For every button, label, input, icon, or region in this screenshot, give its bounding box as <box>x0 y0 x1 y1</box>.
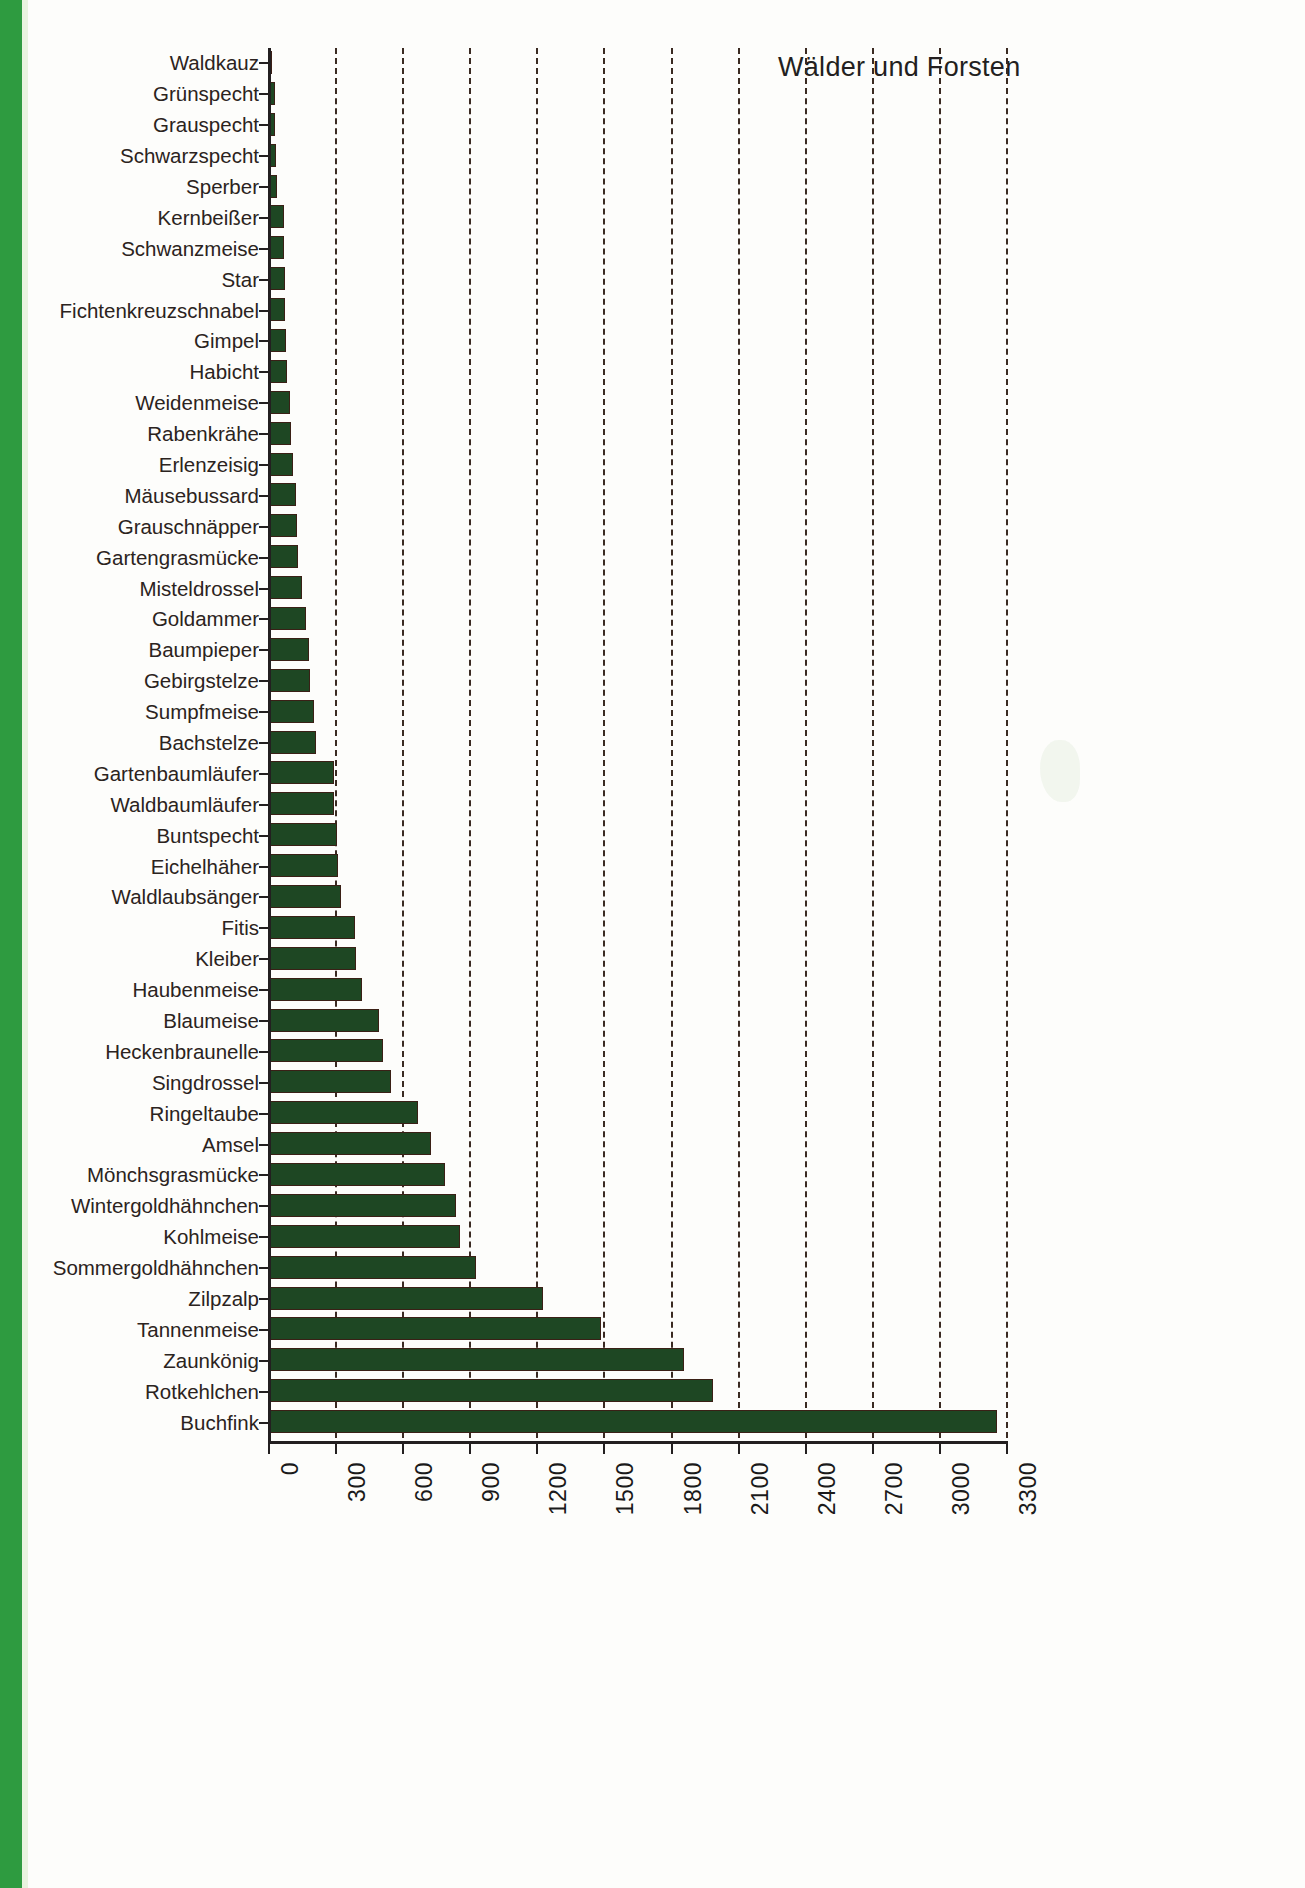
x-axis-line <box>268 1441 1008 1444</box>
y-axis-tick <box>259 896 268 898</box>
y-axis-label: Eichelhäher <box>151 857 259 878</box>
bar-row <box>268 1129 1006 1160</box>
bar-row <box>268 419 1006 450</box>
bar-row <box>268 944 1006 975</box>
y-axis-tick <box>259 1082 268 1084</box>
y-axis-label: Erlenzeisig <box>159 455 259 476</box>
y-axis-tick <box>259 989 268 991</box>
y-axis-tick <box>259 1298 268 1300</box>
bar <box>268 1287 543 1310</box>
bar-row <box>268 913 1006 944</box>
y-axis-tick <box>259 866 268 868</box>
bar-chart: Wälder und Forsten WaldkauzGrünspechtGra… <box>0 0 1305 1888</box>
bar-row <box>268 666 1006 697</box>
y-axis-label: Schwarzspecht <box>120 146 259 167</box>
y-axis-tick <box>259 340 268 342</box>
y-axis-label: Sommergoldhähnchen <box>53 1258 259 1279</box>
y-axis-label: Blaumeise <box>163 1011 259 1032</box>
y-axis-label: Buchfink <box>180 1413 259 1434</box>
bar <box>268 514 297 537</box>
x-axis-tick-label: 2700 <box>881 1462 908 1515</box>
x-axis-tick-label: 1800 <box>680 1462 707 1515</box>
x-axis-tick-label: 2400 <box>814 1462 841 1515</box>
y-axis-label: Heckenbraunelle <box>105 1042 259 1063</box>
y-axis-label: Singdrossel <box>152 1073 259 1094</box>
bar-row <box>268 573 1006 604</box>
bar <box>268 1225 460 1248</box>
y-axis-label: Goldammer <box>152 609 259 630</box>
x-axis-tick-label: 2100 <box>747 1462 774 1515</box>
bar-row <box>268 1006 1006 1037</box>
bar <box>268 792 334 815</box>
y-axis-tick <box>259 958 268 960</box>
bar-row <box>268 1253 1006 1284</box>
bar-row <box>268 1314 1006 1345</box>
y-axis-label: Grauspecht <box>153 115 259 136</box>
y-axis-tick <box>259 1329 268 1331</box>
y-axis-label: Schwanzmeise <box>121 239 259 260</box>
x-axis-tick-label: 300 <box>344 1462 371 1502</box>
y-axis-tick <box>259 186 268 188</box>
bar <box>268 607 306 630</box>
bar-row <box>268 1345 1006 1376</box>
bar-row <box>268 820 1006 851</box>
y-axis-tick <box>259 124 268 126</box>
bar <box>268 576 302 599</box>
y-axis-label: Tannenmeise <box>137 1320 259 1341</box>
bar-row <box>268 357 1006 388</box>
x-axis-tick <box>402 1441 404 1454</box>
y-axis-tick <box>259 402 268 404</box>
x-axis-tick <box>805 1441 807 1454</box>
x-axis-tick <box>335 1441 337 1454</box>
x-axis-tick-label: 1500 <box>612 1462 639 1515</box>
x-axis-tick-label: 600 <box>411 1462 438 1502</box>
bar-row <box>268 233 1006 264</box>
y-axis-tick <box>259 557 268 559</box>
y-axis-label: Zilpzalp <box>188 1289 259 1310</box>
bar <box>268 1070 391 1093</box>
y-axis-label: Waldkauz <box>170 53 259 74</box>
x-axis-tick <box>469 1441 471 1454</box>
y-axis-label: Haubenmeise <box>133 980 260 1001</box>
y-axis-tick <box>259 680 268 682</box>
y-axis-label: Zaunkönig <box>163 1351 259 1372</box>
bar-row <box>268 141 1006 172</box>
y-axis-tick <box>259 155 268 157</box>
y-axis-tick <box>259 248 268 250</box>
y-axis-label: Baumpieper <box>148 640 259 661</box>
y-axis-tick <box>259 835 268 837</box>
y-axis-tick <box>259 526 268 528</box>
bar-row <box>268 264 1006 295</box>
bar-row <box>268 728 1006 759</box>
y-axis-label: Ringeltaube <box>150 1104 259 1125</box>
bar <box>268 453 293 476</box>
gridline <box>1006 48 1008 1438</box>
bar <box>268 483 296 506</box>
x-axis-tick <box>872 1441 874 1454</box>
bar <box>268 1101 418 1124</box>
y-axis-label: Kohlmeise <box>163 1227 259 1248</box>
y-axis-label: Gartengrasmücke <box>96 548 259 569</box>
x-axis-tick <box>939 1441 941 1454</box>
y-axis-tick <box>259 711 268 713</box>
x-axis-tick <box>268 1441 270 1454</box>
y-axis-label: Grauschnäpper <box>118 517 259 538</box>
y-axis-tick <box>259 1360 268 1362</box>
bar <box>268 823 337 846</box>
plot-area <box>268 48 1006 1438</box>
bar-row <box>268 79 1006 110</box>
y-axis-tick <box>259 618 268 620</box>
bar-row <box>268 511 1006 542</box>
y-axis-tick <box>259 371 268 373</box>
y-axis-label: Gartenbaumläufer <box>94 764 259 785</box>
y-axis-tick <box>259 649 268 651</box>
y-axis-label: Fitis <box>221 918 259 939</box>
x-axis-tick-label: 0 <box>277 1462 304 1475</box>
y-axis-tick <box>259 433 268 435</box>
bar-row <box>268 1222 1006 1253</box>
bar <box>268 1379 713 1402</box>
y-axis-label: Mönchsgrasmücke <box>87 1165 259 1186</box>
y-axis-label: Grünspecht <box>153 84 259 105</box>
y-axis-tick <box>259 93 268 95</box>
bar <box>268 731 316 754</box>
